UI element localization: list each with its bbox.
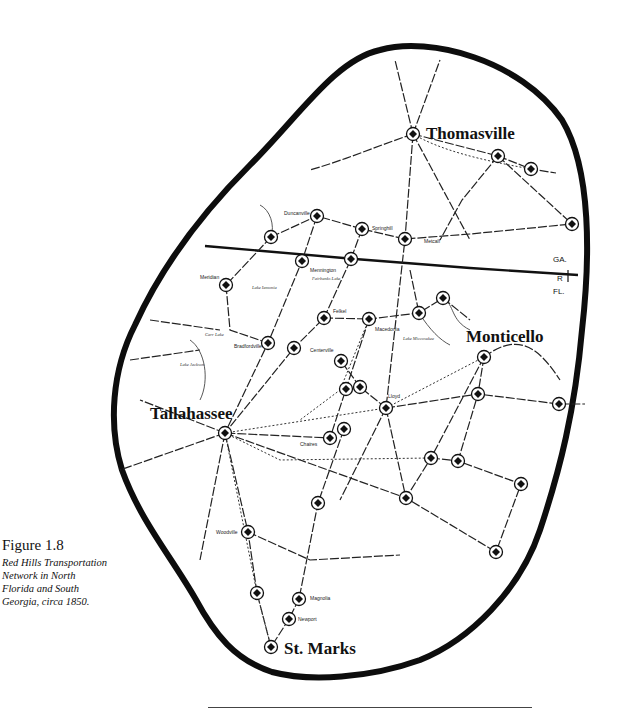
lake-label: Carr Lake <box>205 332 224 337</box>
station-marker-icon <box>425 452 438 465</box>
town-label: Centerville <box>310 347 334 353</box>
lake-label: Lake Miccosukee <box>402 336 434 341</box>
town-label: Chaires <box>300 441 318 447</box>
town-label: Mennington <box>310 267 336 273</box>
caption-line: Florida and South <box>2 582 162 595</box>
station-marker-icon <box>363 313 376 326</box>
station-marker-icon <box>380 402 393 415</box>
caption-line: Red Hills Transportation <box>2 556 162 569</box>
station-marker-icon <box>553 398 566 411</box>
figure-caption: Figure 1.8 Red Hills Transportation Netw… <box>2 536 162 608</box>
state-label-georgia: GA. <box>553 255 567 264</box>
station-marker-icon <box>324 432 337 445</box>
station-marker-icon <box>340 383 353 396</box>
city-label: Thomasville <box>426 124 515 143</box>
station-marker-icon <box>251 587 264 600</box>
station-marker-icon <box>296 255 309 268</box>
state-line <box>205 246 578 275</box>
town-label: Woodville <box>216 529 238 535</box>
station-marker-icon <box>335 355 348 368</box>
station-marker-icon <box>219 427 232 440</box>
station-marker-icon <box>490 546 503 559</box>
lake-label: Lake Jackson <box>179 362 205 367</box>
station-marker-icon <box>345 253 358 266</box>
town-label: Metcalf <box>424 238 441 244</box>
town-label: Springhill <box>372 225 393 231</box>
station-marker-icon <box>311 210 324 223</box>
station-marker-icon <box>399 233 412 246</box>
lake-label: Lake Iamonia <box>251 285 278 290</box>
caption-line: Network in North <box>2 569 162 582</box>
station-marker-icon <box>407 128 420 141</box>
station-marker-icon <box>242 526 255 539</box>
station-marker-icon <box>262 337 275 350</box>
station-marker-icon <box>354 381 367 394</box>
town-label: Macedonia <box>375 326 400 332</box>
figure-number: Figure 1.8 <box>2 536 162 554</box>
station-marker-icon <box>220 279 233 292</box>
station-marker-icon <box>356 223 369 236</box>
state-label-florida: FL. <box>553 287 565 296</box>
town-label: Magnolia <box>310 595 331 601</box>
station-marker-icon <box>478 351 491 364</box>
station-marker-icon <box>283 613 296 626</box>
station-marker-icon <box>525 163 538 176</box>
town-label: Duncanville <box>284 210 310 216</box>
town-label: Meridian <box>200 274 219 280</box>
city-label: Tallahassee <box>150 404 233 423</box>
roads <box>120 60 585 647</box>
station-marker-icon <box>515 478 528 491</box>
station-marker-icon <box>472 388 485 401</box>
station-marker-icon <box>293 593 306 606</box>
station-marker-icon <box>288 342 301 355</box>
railroads <box>225 134 531 647</box>
town-label: Felkel <box>333 308 346 314</box>
station-marker-icon <box>452 455 465 468</box>
station-markers <box>219 128 579 654</box>
station-marker-icon <box>566 218 579 231</box>
town-label: Bradfordville <box>234 343 262 349</box>
state-line-marker: R <box>557 274 563 283</box>
station-marker-icon <box>265 231 278 244</box>
station-marker-icon <box>318 312 331 325</box>
figure-description: Red Hills Transportation Network in Nort… <box>2 556 162 608</box>
bottom-rule <box>208 707 532 708</box>
city-label: Monticello <box>466 327 543 346</box>
station-marker-icon <box>338 423 351 436</box>
station-marker-icon <box>437 292 450 305</box>
town-label: Newport <box>298 616 317 622</box>
station-marker-icon <box>413 307 426 320</box>
station-marker-icon <box>492 150 505 163</box>
caption-line: Georgia, circa 1850. <box>2 595 162 608</box>
town-label: Lloyd <box>388 393 400 399</box>
lake-label: Fairbanks Lake <box>311 276 340 281</box>
streams <box>190 205 470 400</box>
station-marker-icon <box>400 492 413 505</box>
station-marker-icon <box>312 497 325 510</box>
transportation-map: ThomasvilleMonticelloTallahasseeSt. Mark… <box>0 0 624 721</box>
station-marker-icon <box>265 641 278 654</box>
city-label: St. Marks <box>284 639 356 658</box>
